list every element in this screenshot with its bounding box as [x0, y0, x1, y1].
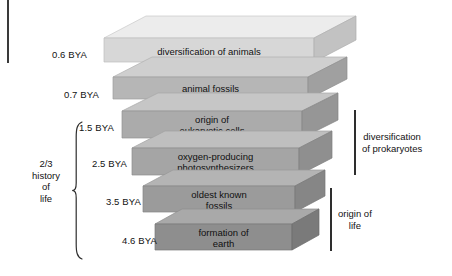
- group-label-diversification-of-prokaryotes: diversification of prokaryotes: [362, 131, 422, 154]
- slab-front-face: [155, 224, 292, 250]
- age-label-1-5-bya: 1.5 BYA: [79, 122, 114, 133]
- layer-formation-of-earth: formation of earth: [155, 209, 319, 265]
- age-label-4-6-bya: 4.6 BYA: [122, 235, 157, 246]
- age-label-0-6-bya: 0.6 BYA: [52, 49, 87, 60]
- slab-top-face: [104, 16, 356, 38]
- diagram-canvas: diversification of animals animal fossil…: [0, 0, 452, 276]
- group-label-origin-of-life: origin of life: [338, 208, 372, 231]
- age-label-3-5-bya: 3.5 BYA: [106, 196, 141, 207]
- slab-top-face: [113, 57, 347, 77]
- bracket-origin-of-life: [330, 188, 332, 251]
- history-of-life-brace-icon: [71, 121, 83, 260]
- slab-top-face: [155, 209, 319, 224]
- slab-top-face: [132, 131, 332, 148]
- bracket-diversification-of-prokaryotes: [354, 110, 356, 175]
- age-label-0-7-bya: 0.7 BYA: [64, 89, 99, 100]
- age-label-2-5-bya: 2.5 BYA: [92, 158, 127, 169]
- slab-top-face: [143, 170, 325, 186]
- slab-top-face: [122, 93, 338, 111]
- history-of-life-label: 2/3 history of life: [20, 158, 72, 204]
